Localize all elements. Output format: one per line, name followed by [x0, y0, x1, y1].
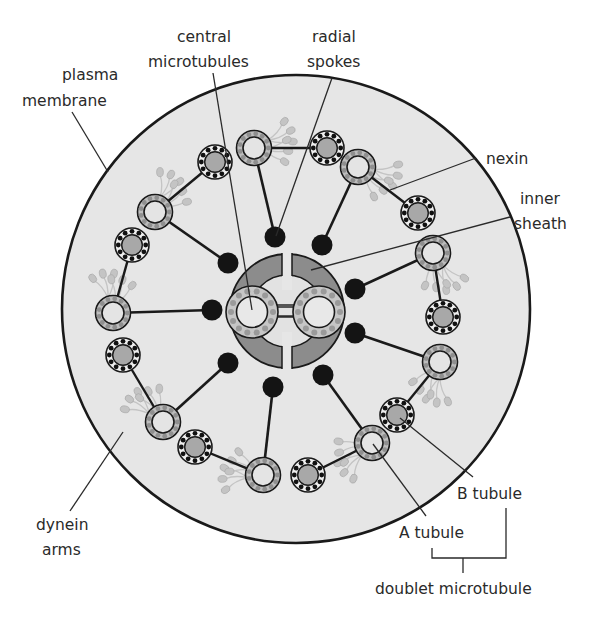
axoneme-diagram: plasmamembrane centralmicrotubules radia…: [0, 0, 592, 621]
spoke-head: [218, 353, 239, 374]
a-tubule: [96, 296, 131, 331]
b-tubule: [106, 338, 140, 372]
a-tubule: [146, 405, 181, 440]
a-tubule: [423, 345, 458, 380]
spoke-head: [263, 377, 284, 398]
label-plasma-membrane: plasmamembrane: [22, 66, 118, 110]
a-tubule: [246, 458, 281, 493]
label-a-tubule: A tubule: [399, 524, 464, 542]
b-tubule: [426, 300, 460, 334]
label-radial-spokes: radialspokes: [307, 28, 360, 71]
b-tubule: [310, 131, 344, 165]
a-tubule: [237, 131, 272, 166]
label-dynein-arms: dyneinarms: [36, 516, 89, 559]
spoke-head: [265, 227, 286, 248]
a-tubule: [138, 195, 173, 230]
label-b-tubule: B tubule: [457, 485, 522, 503]
spoke-head: [345, 279, 366, 300]
spoke-head: [312, 235, 333, 256]
spoke-head: [345, 323, 366, 344]
label-doublet-microtubule: doublet microtubule: [375, 580, 532, 598]
label-nexin: nexin: [486, 150, 528, 168]
b-tubule: [380, 398, 414, 432]
label-inner-sheath: innersheath: [514, 190, 567, 233]
a-tubule: [355, 426, 390, 461]
central-microtubule: [226, 286, 278, 338]
spoke-head: [202, 300, 223, 321]
b-tubule: [401, 196, 435, 230]
spoke-head: [218, 253, 239, 274]
b-tubule: [115, 228, 149, 262]
central-microtubule: [293, 286, 345, 338]
label-central-microtubules: centralmicrotubules: [148, 28, 249, 71]
b-tubule: [198, 145, 232, 179]
b-tubule: [291, 458, 325, 492]
a-tubule: [341, 150, 376, 185]
spoke-head: [313, 365, 334, 386]
b-tubule: [178, 430, 212, 464]
